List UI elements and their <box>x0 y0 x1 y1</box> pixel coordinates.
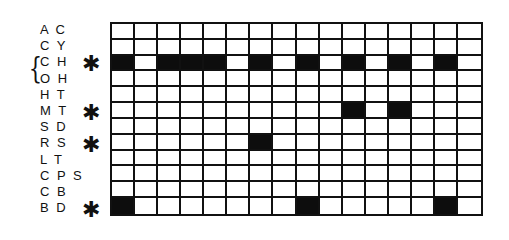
grid-cell <box>273 103 296 119</box>
grid-cell <box>320 40 343 56</box>
grid-cell <box>412 71 435 87</box>
grid-cell <box>273 182 296 198</box>
grid-cell <box>343 71 366 87</box>
grid-cell <box>181 198 204 214</box>
grid-cell <box>343 182 366 198</box>
grid-cell <box>366 40 389 56</box>
grid-cell <box>112 71 135 87</box>
grid-cell <box>343 24 366 40</box>
grid-cell <box>181 166 204 182</box>
row-labels: A CC YC H✱O HH TM T✱S DR S✱L TC P SC BB … <box>40 22 110 216</box>
row-label: O H <box>40 71 110 87</box>
grid-cell <box>435 119 458 135</box>
grid-cell <box>435 24 458 40</box>
row-code: R S <box>40 135 68 151</box>
grid-cell <box>458 135 481 151</box>
grid-cell <box>227 166 250 182</box>
grid-cell <box>297 71 320 87</box>
grid-cell <box>250 40 273 56</box>
row-code: M T <box>40 103 68 119</box>
grid-cell-filled <box>389 56 412 72</box>
brace-ch-oh: { <box>29 53 42 83</box>
grid-cell <box>435 182 458 198</box>
grid-cell <box>366 56 389 72</box>
grid-cell <box>320 56 343 72</box>
grid-cell <box>158 166 181 182</box>
grid-cell <box>135 56 158 72</box>
grid-cell <box>458 198 481 214</box>
grid-cell <box>204 87 227 103</box>
grid-cell <box>250 151 273 167</box>
grid-cell <box>458 87 481 103</box>
grid-cell <box>389 182 412 198</box>
row-label: R S✱ <box>40 135 110 151</box>
grid-cell <box>366 103 389 119</box>
grid-cell <box>297 182 320 198</box>
grid-cell <box>158 198 181 214</box>
grid-cell <box>320 87 343 103</box>
grid-cell <box>366 87 389 103</box>
grid-cell <box>435 87 458 103</box>
grid-cell <box>412 24 435 40</box>
grid-cell <box>135 40 158 56</box>
grid-cell <box>250 182 273 198</box>
grid-cell <box>112 87 135 103</box>
grid-cell <box>204 198 227 214</box>
grid-cell <box>389 71 412 87</box>
grid-cell <box>366 198 389 214</box>
grid-cell <box>181 24 204 40</box>
grid-cell <box>320 151 343 167</box>
grid-cell <box>204 119 227 135</box>
row-label: C H✱ <box>40 54 110 70</box>
grid-cell <box>250 24 273 40</box>
grid-cell <box>366 24 389 40</box>
row-code: C Y <box>40 38 67 54</box>
grid-cell <box>204 24 227 40</box>
grid-cell <box>343 198 366 214</box>
grid-cell <box>320 135 343 151</box>
grid-cell <box>227 119 250 135</box>
grid-cell <box>389 40 412 56</box>
grid-cell <box>435 71 458 87</box>
grid-cell <box>158 119 181 135</box>
grid-cell <box>158 182 181 198</box>
grid-cell <box>297 135 320 151</box>
grid-cell <box>112 151 135 167</box>
grid-cell <box>273 198 296 214</box>
grid-cell <box>204 166 227 182</box>
grid-cell <box>181 87 204 103</box>
grid-cell <box>181 71 204 87</box>
grid-cell <box>227 103 250 119</box>
grid-cell <box>112 119 135 135</box>
grid-cell <box>227 182 250 198</box>
grid-cell <box>112 182 135 198</box>
grid-cell <box>412 40 435 56</box>
grid-cell <box>204 103 227 119</box>
grid-cell <box>158 87 181 103</box>
row-label: C P S <box>40 168 110 184</box>
grid-cell <box>227 151 250 167</box>
grid-cell <box>297 40 320 56</box>
grid-cell <box>250 166 273 182</box>
row-code: S D <box>40 119 68 135</box>
grid-cell <box>273 119 296 135</box>
grid-cell <box>343 166 366 182</box>
row-code: A C <box>40 22 67 38</box>
row-label: A C <box>40 22 110 38</box>
grid-cell <box>435 40 458 56</box>
grid-cell-filled <box>158 56 181 72</box>
grid-cell-filled <box>297 56 320 72</box>
grid-cell <box>112 24 135 40</box>
grid-cell <box>135 119 158 135</box>
grid-cell <box>181 119 204 135</box>
grid-cell <box>320 182 343 198</box>
grid-cell <box>135 166 158 182</box>
grid-cell <box>135 151 158 167</box>
grid-cell <box>343 151 366 167</box>
grid-cell <box>366 151 389 167</box>
grid-cell <box>250 71 273 87</box>
grid-cell <box>158 71 181 87</box>
grid-cell <box>435 166 458 182</box>
grid-cell <box>366 135 389 151</box>
grid-cell <box>112 135 135 151</box>
